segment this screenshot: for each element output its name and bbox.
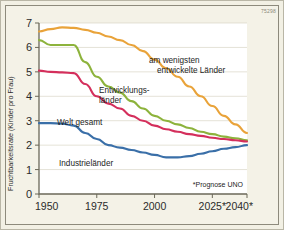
y-tick-label-6: 6: [26, 41, 32, 53]
y-tick-label-4: 4: [26, 90, 32, 102]
y-tick-label-0: 0: [26, 188, 32, 200]
annotation-world-total: Welt gesamt: [57, 118, 103, 127]
annotation-developing-line2: länder: [99, 96, 122, 105]
annotation-least-developed-line1: am wenigsten: [149, 56, 200, 65]
y-axis-ticks-group: 01234567: [26, 17, 39, 200]
x-tick-label-2000: 2000: [143, 200, 167, 212]
annotation-developing-line1: Entwicklungs-: [99, 86, 150, 95]
x-axis-ticks-group: 1950197520002025*2040*: [35, 194, 253, 212]
annotation-least-developed-line2: entwickelte Länder: [157, 66, 226, 75]
x-tick-label-1975: 1975: [85, 200, 109, 212]
y-tick-label-2: 2: [26, 139, 32, 151]
y-tick-label-1: 1: [26, 164, 32, 176]
y-tick-label-3: 3: [26, 115, 32, 127]
y-tick-label-5: 5: [26, 66, 32, 78]
chart-figure: 75298 01234567 1950197520002025*2040* Fr…: [0, 0, 284, 230]
x-tick-label-2040: 2040*: [226, 200, 253, 212]
x-tick-label-2025: 2025*: [199, 200, 226, 212]
forecast-footnote: *Prognose UNO: [193, 181, 244, 189]
y-axis-title: Fruchtbarkeitsrate (Kinder pro Frau): [6, 76, 15, 191]
fertility-rate-line-chart: 01234567 1950197520002025*2040* Fruchtba…: [1, 1, 284, 230]
x-tick-label-1950: 1950: [35, 200, 59, 212]
annotation-industrial: Industrieländer: [59, 159, 113, 168]
y-tick-label-7: 7: [26, 17, 32, 29]
